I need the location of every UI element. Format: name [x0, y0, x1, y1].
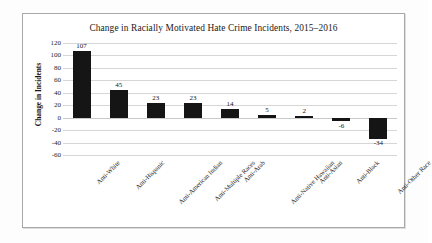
- bar-slot: -34: [360, 43, 397, 155]
- bar-slot: 107: [63, 43, 100, 155]
- bar[interactable]: [258, 115, 276, 118]
- plot-area: 120100806040200-20-40-60 1074523231452-6…: [63, 43, 397, 155]
- bar-value-label: -34: [374, 139, 383, 147]
- y-axis-tick-label: 0: [31, 114, 61, 122]
- bar-slot: 23: [174, 43, 211, 155]
- bar-value-label: 107: [76, 42, 87, 50]
- x-axis-category-label: Anti-Other Race: [396, 159, 432, 195]
- bar-value-label: 23: [189, 94, 196, 102]
- y-axis-tick-label: -60: [31, 151, 61, 159]
- bar[interactable]: [295, 116, 313, 118]
- bar[interactable]: [147, 103, 165, 117]
- bar-value-label: 5: [265, 106, 269, 114]
- bar-slot: 45: [100, 43, 137, 155]
- x-axis-category-label: Anti-Black: [354, 159, 380, 185]
- x-axis-category-label: Anti-White: [95, 159, 121, 185]
- y-axis-tick-label: -20: [31, 126, 61, 134]
- bar-slot: 23: [137, 43, 174, 155]
- chart-title: Change in Racially Motivated Hate Crime …: [23, 23, 404, 33]
- bar[interactable]: [110, 90, 128, 118]
- y-axis-tick-label: 120: [31, 39, 61, 47]
- y-axis-tick-label: 60: [31, 76, 61, 84]
- x-axis-category-label: Anti-Native Hawaiian: [289, 159, 335, 205]
- y-axis-tick-label: 20: [31, 101, 61, 109]
- bar-slot: 2: [286, 43, 323, 155]
- bar-value-label: 14: [226, 100, 233, 108]
- bar-value-label: 23: [152, 94, 159, 102]
- y-axis-tick-label: -40: [31, 139, 61, 147]
- bar-value-label: 2: [302, 107, 306, 115]
- x-axis-category-label: Anti-Hispanic: [134, 159, 165, 190]
- bar-value-label: 45: [115, 81, 122, 89]
- y-axis-tick-label: 80: [31, 64, 61, 72]
- bar-series: 1074523231452-6-34: [63, 43, 397, 155]
- y-axis-tick-label: 40: [31, 89, 61, 97]
- y-axis-tick-label: 100: [31, 51, 61, 59]
- bar[interactable]: [332, 118, 350, 122]
- bar-slot: -6: [323, 43, 360, 155]
- bar[interactable]: [369, 118, 387, 139]
- bar[interactable]: [73, 51, 91, 118]
- bar[interactable]: [221, 109, 239, 118]
- bar-value-label: -6: [338, 122, 344, 130]
- bar-slot: 5: [249, 43, 286, 155]
- gridline: [63, 155, 397, 156]
- bar-slot: 14: [211, 43, 248, 155]
- chart-frame: Change in Racially Motivated Hate Crime …: [22, 13, 405, 228]
- bar[interactable]: [184, 103, 202, 117]
